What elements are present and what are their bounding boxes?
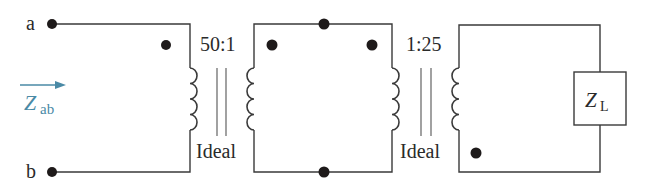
load-symbol: Z	[585, 88, 597, 112]
zab-symbol: Z	[24, 90, 37, 115]
circuit-diagram: a b Z ab 50:1 Ideal 1:25 Ideal Z L	[0, 0, 645, 192]
polarity-dot	[471, 148, 482, 159]
terminal-a-label: a	[26, 12, 35, 34]
polarity-dot	[367, 40, 378, 51]
node-dot	[319, 19, 330, 30]
transformer-2-ratio: 1:25	[406, 33, 442, 55]
node-dot	[319, 167, 330, 178]
primary-loop	[52, 24, 197, 172]
terminal-b-label: b	[26, 160, 36, 182]
transformer-1-label: Ideal	[196, 140, 236, 162]
polarity-dot	[161, 40, 171, 50]
load-subscript: L	[600, 99, 609, 114]
terminal-a	[47, 19, 57, 29]
transformer-2-label: Ideal	[400, 140, 440, 162]
polarity-dot	[267, 40, 278, 51]
terminal-b	[47, 167, 57, 177]
zab-arrow-icon	[20, 81, 66, 89]
zab-subscript: ab	[40, 101, 54, 117]
transformer-1-ratio: 50:1	[200, 33, 236, 55]
